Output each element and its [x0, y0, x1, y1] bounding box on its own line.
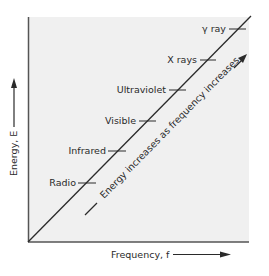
label-visible: Visible	[105, 115, 136, 126]
label-infrared: Infrared	[69, 145, 106, 156]
y-axis-arrow-icon	[11, 78, 17, 88]
label-radio: Radio	[49, 177, 76, 188]
label-xrays: X rays	[167, 54, 197, 65]
x-axis-label: Frequency, f	[111, 249, 170, 260]
y-axis-label: Energy, E	[8, 131, 19, 176]
label-gamma: γ ray	[202, 23, 226, 34]
energy-frequency-diagram: Radio Infrared Visible Ultraviolet X ray…	[0, 0, 269, 276]
x-axis-arrow-icon	[220, 252, 231, 258]
label-ultraviolet: Ultraviolet	[117, 84, 167, 95]
